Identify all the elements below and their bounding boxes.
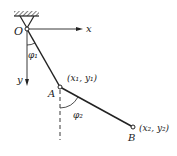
label-phi2: φ₂ xyxy=(73,110,83,120)
label-phi1: φ₁ xyxy=(28,50,38,60)
rod-AB xyxy=(60,87,133,127)
double-pendulum-diagram: O x y φ₁ A (x₁, y₁) φ₂ B (x₂, y₂) xyxy=(0,0,177,156)
label-y-axis: y xyxy=(16,74,23,85)
label-O: O xyxy=(14,25,23,38)
joint-B xyxy=(131,125,135,129)
label-A: A xyxy=(47,88,55,99)
label-x-axis: x xyxy=(86,23,92,34)
label-A-coords: (x₁, y₁) xyxy=(67,73,98,83)
joint-O xyxy=(25,27,29,31)
angle-arc-phi1 xyxy=(27,43,35,45)
x-axis xyxy=(27,27,83,31)
joint-A xyxy=(58,85,62,89)
angle-arc-phi2 xyxy=(60,97,78,108)
label-B: B xyxy=(127,132,135,143)
label-B-coords: (x₂, y₂) xyxy=(139,123,170,133)
